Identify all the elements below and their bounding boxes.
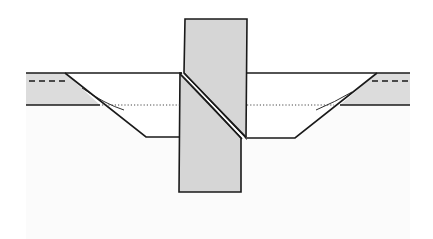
cross-section-diagram: [0, 0, 433, 239]
diagram-canvas: [0, 0, 433, 239]
